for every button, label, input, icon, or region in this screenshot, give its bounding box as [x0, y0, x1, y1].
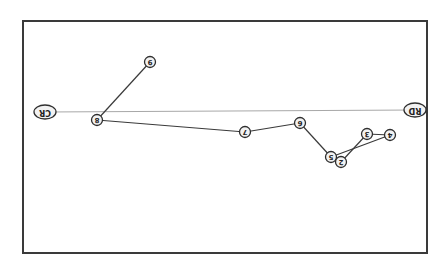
edge-6-5: [300, 123, 331, 157]
node-6: 6: [295, 118, 306, 129]
node-label: 4: [387, 131, 392, 139]
node-label: 7: [242, 128, 247, 136]
node-label: 5: [328, 153, 333, 161]
node-8: 8: [92, 115, 103, 126]
rotated-diagram-group: CRRD98765234: [23, 21, 427, 253]
node-rd: RD: [404, 103, 426, 117]
node-3: 3: [362, 129, 373, 140]
node-9: 9: [145, 57, 156, 68]
node-label: 3: [364, 130, 369, 138]
node-label: 9: [147, 58, 152, 66]
path-diagram: CRRD98765234: [0, 0, 446, 268]
node-4: 4: [385, 130, 396, 141]
diagram-canvas: CRRD98765234: [0, 0, 446, 268]
node-2: 2: [336, 157, 347, 168]
edge-5-4: [331, 135, 390, 157]
node-label: 8: [94, 116, 99, 124]
node-label: 2: [338, 158, 343, 166]
edge-layer: [97, 62, 390, 162]
node-5: 5: [326, 152, 337, 163]
edge-8-7: [97, 120, 245, 132]
node-cr: CR: [34, 105, 56, 119]
node-label: CR: [39, 108, 51, 117]
node-label: RD: [408, 106, 421, 115]
edge-7-6: [245, 123, 300, 132]
node-7: 7: [240, 127, 251, 138]
cr-rd-axis-line: [45, 110, 415, 112]
node-label: 6: [297, 119, 302, 127]
